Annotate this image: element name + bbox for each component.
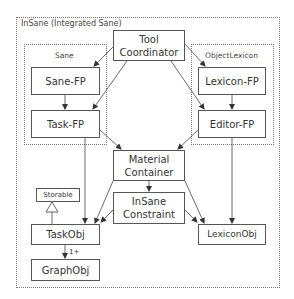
graph-obj-label: GraphObj [42, 264, 90, 277]
tool-coordinator-line1: Tool [120, 33, 179, 46]
lexicon-fp-label: Lexicon-FP [205, 75, 258, 88]
storable-node: Storable [36, 188, 80, 202]
material-container-node: Material Container [113, 150, 185, 181]
editor-fp-node: Editor-FP [198, 110, 266, 138]
graph-obj-node: GraphObj [31, 259, 100, 281]
editor-fp-label: Editor-FP [210, 118, 254, 131]
storable-label: Storable [43, 189, 72, 202]
material-container-line2: Container [125, 166, 174, 179]
lexicon-fp-node: Lexicon-FP [198, 67, 266, 95]
tool-coordinator-node: Tool Coordinator [113, 30, 185, 61]
task-obj-label: TaskObj [46, 228, 85, 241]
material-container-line1: Material [125, 153, 174, 166]
insane-constraint-line2: Constraint [123, 208, 175, 221]
insane-constraint-node: InSane Constraint [113, 192, 185, 224]
insane-constraint-line1: InSane [123, 195, 175, 208]
task-obj-node: TaskObj [31, 224, 100, 245]
task-fp-label: Task-FP [47, 118, 84, 131]
tool-coordinator-line2: Coordinator [120, 46, 179, 59]
sane-fp-node: Sane-FP [31, 67, 100, 95]
lexicon-obj-label: LexiconObj [207, 228, 257, 241]
multiplicity-label: 1+ [69, 248, 79, 256]
task-fp-node: Task-FP [31, 110, 100, 138]
sane-fp-label: Sane-FP [45, 75, 85, 88]
lexicon-obj-node: LexiconObj [198, 224, 266, 245]
